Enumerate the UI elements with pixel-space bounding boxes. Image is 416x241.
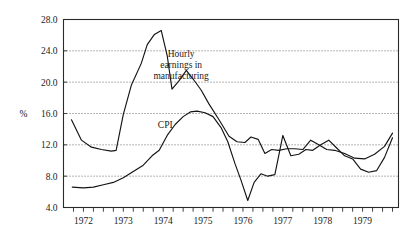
x-tick-label-1979: 1979	[353, 216, 372, 226]
series-line-hourly-earnings	[71, 30, 392, 158]
y-tick-label-4: 4.0	[46, 203, 58, 213]
y-tick-label-20: 20.0	[41, 78, 58, 88]
y-axis-tick-labels: 4.08.012.016.020.024.028.0	[41, 15, 58, 213]
y-axis-title-label: %	[20, 109, 28, 119]
y-tick-label-28: 28.0	[41, 15, 58, 25]
x-tick-label-1972: 1972	[74, 216, 93, 226]
series-line-cpi	[72, 111, 392, 200]
y-tick-label-16: 16.0	[41, 109, 58, 119]
x-tick-label-1974: 1974	[154, 216, 173, 226]
cpi-label: CPI	[158, 120, 173, 130]
data-series-lines	[71, 30, 392, 200]
chart-container: 4.08.012.016.020.024.028.0 1972197319741…	[0, 0, 416, 241]
x-tick-label-1977: 1977	[273, 216, 292, 226]
x-tick-label-1973: 1973	[114, 216, 133, 226]
plot-frame	[64, 20, 399, 208]
y-tick-label-8: 8.0	[46, 172, 58, 182]
y-tick-label-24: 24.0	[41, 46, 58, 56]
x-axis-tick-labels: 19721973197419751976197719781979	[74, 216, 372, 226]
x-tick-label-1976: 1976	[233, 216, 252, 226]
y-axis-title: %	[20, 109, 28, 119]
x-tick-label-1975: 1975	[194, 216, 213, 226]
inflation-line-chart: 4.08.012.016.020.024.028.0 1972197319741…	[0, 0, 416, 241]
plot-area-frame	[64, 20, 399, 208]
hourly-earnings-label: Hourlyearnings inmanufacturing	[153, 49, 209, 81]
x-axis-ticks	[73, 208, 392, 212]
y-tick-label-12: 12.0	[41, 140, 58, 150]
x-tick-label-1978: 1978	[313, 216, 332, 226]
